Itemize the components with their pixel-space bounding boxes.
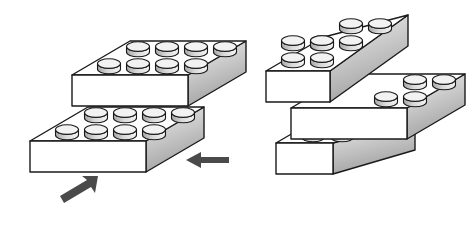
right-lower-brick-front-face — [276, 143, 333, 174]
lego-illustration — [0, 0, 474, 225]
right-middle-brick-front-face — [291, 108, 407, 139]
right-upper-brick-front-face — [266, 71, 330, 102]
lego-figure: LEGO brick assembly diagram Two groups o… — [0, 0, 474, 225]
left-upper-brick-front-face — [72, 75, 188, 106]
left-lower-brick-front-face — [30, 141, 146, 172]
